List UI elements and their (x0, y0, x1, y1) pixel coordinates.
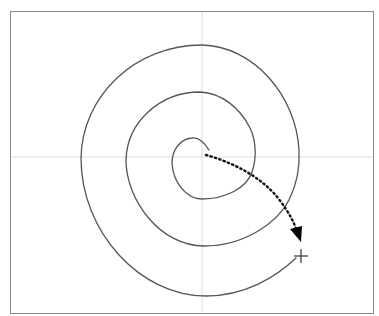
frame-border (11, 12, 374, 314)
spiral-diagram (0, 0, 379, 316)
